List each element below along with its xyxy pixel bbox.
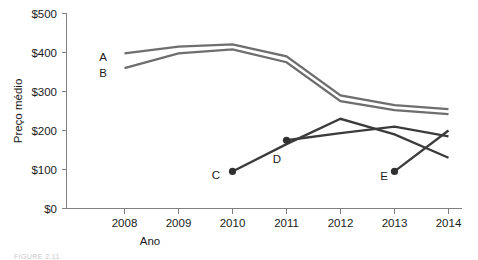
y-tick-label: $100 <box>31 164 57 176</box>
x-axis-tick-labels: 2008 2009 2010 2011 2012 2013 2014 <box>112 217 462 229</box>
y-tick-label: $200 <box>31 125 57 137</box>
x-tick-label: 2008 <box>112 217 138 229</box>
series-line-e <box>395 131 449 172</box>
series-label-b: B <box>99 67 107 79</box>
y-tick-label: $500 <box>31 8 57 20</box>
x-tick-label: 2013 <box>382 217 408 229</box>
series-start-marker-d <box>283 137 290 144</box>
series-label-d: D <box>273 153 281 165</box>
x-axis-title: Ano <box>140 235 160 247</box>
y-axis-title: Preço médio <box>12 79 24 144</box>
x-tick-label: 2010 <box>220 217 246 229</box>
x-tick-label: 2012 <box>328 217 354 229</box>
x-tick-label: 2014 <box>436 217 462 229</box>
series-start-marker-e <box>391 168 398 175</box>
series-label-a: A <box>99 51 107 63</box>
series-line-c <box>233 119 449 172</box>
y-axis-ticks <box>62 14 67 209</box>
series-label-c: C <box>212 169 220 181</box>
y-tick-label: $300 <box>31 86 57 98</box>
x-tick-label: 2009 <box>166 217 192 229</box>
series-start-marker-c <box>229 168 236 175</box>
y-tick-label: $0 <box>44 203 57 215</box>
series-layer <box>125 44 449 175</box>
x-tick-label: 2011 <box>274 217 299 229</box>
series-label-e: E <box>380 170 388 182</box>
x-axis-ticks <box>125 209 449 214</box>
figure-caption: FIGURE 2.11 <box>14 253 60 260</box>
y-axis-tick-labels: $0 $100 $200 $300 $400 $500 <box>31 8 57 215</box>
series-annotations: A B C D E <box>99 51 388 182</box>
y-tick-label: $400 <box>31 47 57 59</box>
